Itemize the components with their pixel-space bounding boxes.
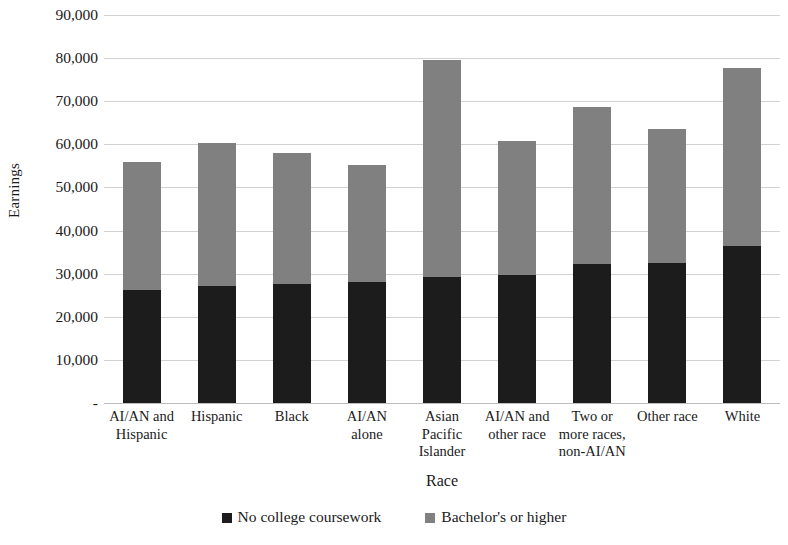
x-axis-tick-label-line: Islander xyxy=(399,443,484,461)
bar-stack xyxy=(348,165,386,403)
bar-group xyxy=(273,15,311,403)
bar-segment xyxy=(498,141,536,275)
bar-stack xyxy=(573,107,611,403)
x-axis-tick-label-line: Other race xyxy=(625,408,710,426)
bar-group xyxy=(573,15,611,403)
bar-segment xyxy=(348,282,386,403)
bar-stack xyxy=(423,60,461,403)
bar-segment xyxy=(273,153,311,284)
bar-group xyxy=(723,15,761,403)
bar-group xyxy=(123,15,161,403)
bar-stack xyxy=(498,141,536,403)
legend-swatch-icon xyxy=(425,513,435,523)
bar-segment xyxy=(648,129,686,264)
y-axis-tick-label: 20,000 xyxy=(14,309,98,325)
x-axis-tick-label: Black xyxy=(249,408,334,426)
bar-segment xyxy=(123,162,161,290)
y-axis-tick-label: - xyxy=(14,395,98,411)
x-axis-tick-label-line: Hispanic xyxy=(99,426,184,444)
bars-layer xyxy=(104,15,780,403)
y-axis-tick-labels: 90,00080,00070,00060,00050,00040,00030,0… xyxy=(14,0,98,420)
bar-segment xyxy=(198,143,236,286)
bar-group xyxy=(198,15,236,403)
plot-area xyxy=(104,15,780,403)
bar-segment xyxy=(123,290,161,403)
x-axis-tick-label: Hispanic xyxy=(174,408,259,426)
legend-item[interactable]: No college coursework xyxy=(222,508,382,526)
x-axis-tick-label-line: alone xyxy=(324,426,409,444)
x-axis-tick-label: AsianPacificIslander xyxy=(399,408,484,461)
bar-segment xyxy=(723,68,761,246)
bar-segment xyxy=(648,263,686,403)
x-axis-tick-label-line: AI/AN xyxy=(324,408,409,426)
y-axis-tick-label: 70,000 xyxy=(14,93,98,109)
x-axis-tick-label-line: Hispanic xyxy=(174,408,259,426)
x-axis-tick-label: AI/AN andother race xyxy=(475,408,560,443)
stacked-bar-chart: Earnings 90,00080,00070,00060,00050,0004… xyxy=(0,0,788,545)
y-axis-tick-label: 50,000 xyxy=(14,179,98,195)
x-axis-tick-label-line: Asian xyxy=(399,408,484,426)
bar-segment xyxy=(498,275,536,403)
x-axis-tick-label-line: more races, xyxy=(550,426,635,444)
bar-stack xyxy=(723,68,761,403)
x-axis-tick-label-line: other race xyxy=(475,426,560,444)
y-axis-tick-label: 60,000 xyxy=(14,136,98,152)
legend-item[interactable]: Bachelor's or higher xyxy=(425,508,566,526)
x-axis-tick-label: AI/AN andHispanic xyxy=(99,408,184,443)
bar-segment xyxy=(423,277,461,403)
axis-baseline xyxy=(104,403,780,404)
x-axis-tick-label: White xyxy=(700,408,785,426)
bar-stack xyxy=(273,153,311,403)
chart-legend: No college courseworkBachelor's or highe… xyxy=(0,508,788,526)
x-axis-tick-label-line: Pacific xyxy=(399,426,484,444)
y-axis-tick-label: 80,000 xyxy=(14,50,98,66)
x-axis-tick-label: Two ormore races,non-AI/AN xyxy=(550,408,635,461)
legend-label: Bachelor's or higher xyxy=(441,508,566,526)
x-axis-tick-labels: AI/AN andHispanicHispanicBlackAI/ANalone… xyxy=(104,408,780,478)
bar-stack xyxy=(123,162,161,403)
bar-stack xyxy=(198,143,236,403)
legend-label: No college coursework xyxy=(238,508,382,526)
x-axis-tick-label-line: non-AI/AN xyxy=(550,443,635,461)
x-axis-tick-label: Other race xyxy=(625,408,710,426)
bar-group xyxy=(348,15,386,403)
bar-segment xyxy=(273,284,311,403)
bar-stack xyxy=(648,129,686,403)
bar-segment xyxy=(348,165,386,282)
x-axis-tick-label-line: AI/AN and xyxy=(475,408,560,426)
bar-group xyxy=(498,15,536,403)
x-axis-tick-label-line: Two or xyxy=(550,408,635,426)
bar-segment xyxy=(723,246,761,403)
bar-group xyxy=(423,15,461,403)
x-axis-title: Race xyxy=(104,472,780,490)
y-axis-tick-label: 30,000 xyxy=(14,266,98,282)
bar-segment xyxy=(198,286,236,403)
y-axis-tick-label: 90,000 xyxy=(14,7,98,23)
y-axis-tick-label: 40,000 xyxy=(14,223,98,239)
bar-group xyxy=(648,15,686,403)
x-axis-tick-label: AI/ANalone xyxy=(324,408,409,443)
bar-segment xyxy=(573,264,611,403)
y-axis-tick-label: 10,000 xyxy=(14,352,98,368)
x-axis-tick-label-line: White xyxy=(700,408,785,426)
legend-swatch-icon xyxy=(222,513,232,523)
x-axis-tick-label-line: Black xyxy=(249,408,334,426)
bar-segment xyxy=(573,107,611,264)
bar-segment xyxy=(423,60,461,277)
x-axis-tick-label-line: AI/AN and xyxy=(99,408,184,426)
